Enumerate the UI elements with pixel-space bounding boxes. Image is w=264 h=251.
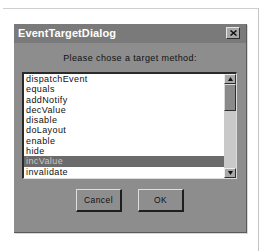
dialog-title: EventTargetDialog — [18, 27, 116, 39]
list-item[interactable]: addNotify — [24, 95, 225, 105]
list-item[interactable]: hide — [24, 146, 225, 156]
method-list: dispatchEvent equals addNotify decValue … — [24, 74, 225, 177]
arrow-down-icon — [228, 171, 233, 175]
list-item[interactable]: dispatchEvent — [24, 74, 225, 84]
list-scrollbar[interactable] — [224, 74, 236, 178]
scroll-down-button[interactable] — [224, 168, 236, 178]
close-button[interactable] — [226, 27, 240, 39]
arrow-up-icon — [228, 77, 233, 81]
list-item[interactable]: equals — [24, 84, 225, 94]
list-item[interactable]: doLayout — [24, 125, 225, 135]
prompt-label: Please chose a target method: — [14, 53, 246, 63]
list-item-selected[interactable]: incValue — [24, 156, 225, 166]
ok-button[interactable]: OK — [138, 189, 184, 212]
list-item[interactable]: disable — [24, 115, 225, 125]
scroll-thumb[interactable] — [224, 84, 236, 111]
page-frame-edge — [258, 8, 259, 251]
list-item[interactable]: decValue — [24, 105, 225, 115]
method-listbox[interactable]: dispatchEvent equals addNotify decValue … — [22, 72, 237, 179]
list-item[interactable]: enable — [24, 136, 225, 146]
cancel-button[interactable]: Cancel — [76, 189, 122, 212]
scroll-up-button[interactable] — [224, 74, 236, 84]
list-item[interactable]: invalidate — [24, 167, 225, 177]
event-target-dialog: EventTargetDialog Please chose a target … — [14, 24, 247, 233]
dialog-titlebar[interactable]: EventTargetDialog — [14, 24, 246, 43]
close-x-icon — [230, 30, 237, 36]
